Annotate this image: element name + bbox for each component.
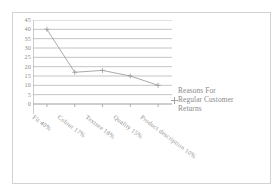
y-axis-tick-label: 35 (24, 36, 31, 42)
plot-area: 45 40 35 30 25 20 15 10 5 0 (33, 20, 172, 114)
data-point-texture (100, 68, 105, 73)
x-axis-tick-label: Fit 40% (31, 114, 52, 132)
y-axis-tick-label: 30 (24, 45, 31, 51)
y-axis-tick-label: 25 (24, 54, 31, 60)
legend-label-line: Regular Customer (178, 95, 266, 104)
y-axis-tick-label: 5 (28, 92, 31, 98)
x-axis-tick-label: Product description 10% (139, 114, 197, 160)
x-axis-tick-label: Colour 17% (56, 114, 86, 139)
data-point-product-description (156, 83, 161, 88)
data-point-colour (72, 70, 77, 75)
y-axis-tick-label: 10 (24, 82, 31, 88)
y-axis-tick-label: 40 (24, 26, 31, 32)
y-axis-tick-label: 15 (24, 73, 31, 79)
chart-page: 45 40 35 30 25 20 15 10 5 0 Fit 40% Colo… (0, 0, 275, 189)
data-point-quality (128, 74, 133, 79)
y-axis-tick-label: 0 (28, 101, 31, 107)
data-point-fit (44, 27, 49, 32)
legend-label-line: Reasons For (178, 86, 266, 95)
cross-marker-icon (171, 97, 178, 104)
legend-label-line: Returns (178, 104, 266, 113)
y-axis-tick-label: 20 (24, 64, 31, 70)
x-axis-tick-label: Texture 18% (84, 114, 116, 140)
line-chart-svg (33, 20, 172, 114)
x-axis-labels: Fit 40% Colour 17% Texture 18% Quality 1… (33, 114, 193, 184)
chart-legend: Reasons For Regular Customer Returns (178, 86, 266, 114)
y-axis-tick-label: 45 (24, 17, 31, 23)
